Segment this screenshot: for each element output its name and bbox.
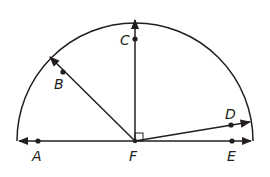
point-F bbox=[133, 139, 137, 143]
semicircle-diagram: A B C D E F bbox=[0, 0, 270, 177]
label-A: A bbox=[31, 148, 42, 164]
point-E bbox=[229, 138, 234, 143]
label-B: B bbox=[54, 76, 64, 92]
label-C: C bbox=[120, 32, 130, 48]
point-D bbox=[228, 122, 233, 127]
point-C bbox=[132, 36, 137, 41]
label-E: E bbox=[227, 148, 236, 164]
label-D: D bbox=[225, 106, 236, 122]
point-B bbox=[60, 69, 65, 74]
point-A bbox=[35, 138, 40, 143]
label-F: F bbox=[129, 148, 138, 164]
